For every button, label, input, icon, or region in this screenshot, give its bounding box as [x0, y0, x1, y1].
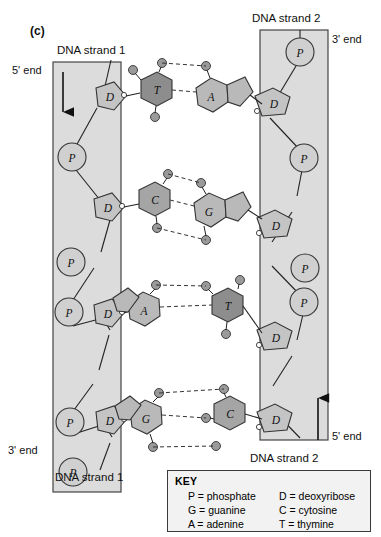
- svg-text:G: G: [142, 413, 151, 425]
- svg-text:P: P: [65, 417, 73, 429]
- hydrogen-bond: [162, 63, 206, 66]
- svg-text:D: D: [103, 202, 113, 214]
- svg-text:P: P: [64, 307, 72, 319]
- hydrogen-bond: [170, 200, 194, 206]
- base-pair-4: G C: [115, 385, 262, 452]
- svg-text:D: D: [271, 220, 281, 232]
- svg-text:D: D: [105, 91, 115, 103]
- atom-node: [222, 330, 231, 339]
- svg-text:D: D: [271, 332, 281, 344]
- strand2-top-label: DNA strand 2: [252, 12, 320, 24]
- svg-text:A: A: [206, 91, 215, 103]
- hydrogen-bond: [153, 446, 216, 447]
- svg-text:G: G: [205, 206, 214, 218]
- key-row: P = phosphate D = deoxyribose: [188, 489, 370, 503]
- three-prime-end-left-label: 3' end: [8, 444, 38, 456]
- five-prime-end-right-label: 5' end: [332, 430, 362, 442]
- dna-diagram-svg: P P P P P D D D: [0, 0, 381, 537]
- svg-text:P: P: [299, 153, 307, 165]
- atom-node: [129, 66, 138, 75]
- svg-text:P: P: [67, 152, 75, 164]
- key-row: A = adenine T = thymine: [188, 517, 370, 531]
- base-pair-3: A T: [113, 276, 262, 339]
- base-G-left: G: [115, 396, 162, 434]
- base-G-right: G: [194, 192, 251, 227]
- svg-text:C: C: [226, 408, 234, 420]
- base-pair-2: C G: [124, 170, 262, 245]
- base-pair-1: T A: [126, 59, 262, 122]
- key-entry-phosphate: P = phosphate: [188, 489, 279, 503]
- dna-structure-figure: P P P P P D D D: [0, 0, 381, 537]
- deoxyribose-node: D: [96, 82, 127, 110]
- three-prime-end-right-label: 3' end: [332, 33, 362, 45]
- key-entry-guanine: G = guanine: [188, 503, 279, 517]
- hydrogen-bond: [159, 389, 224, 393]
- hydrogen-bond: [168, 174, 201, 183]
- base-A-right: A: [196, 77, 253, 112]
- panel-label: (c): [30, 24, 45, 38]
- key-entry-cytosine: C = cytosine: [279, 503, 370, 517]
- hydrogen-bond: [157, 228, 206, 240]
- strand1-bottom-label: DNA strand 1: [55, 471, 123, 483]
- svg-text:D: D: [105, 415, 115, 427]
- strand1-top-label: DNA strand 1: [57, 44, 125, 56]
- svg-text:P: P: [299, 297, 307, 309]
- svg-text:D: D: [271, 414, 281, 426]
- key-row: G = guanine C = cytosine: [188, 503, 370, 517]
- key-entry-thymine: T = thymine: [279, 517, 370, 531]
- hydrogen-bond: [156, 285, 206, 286]
- svg-text:A: A: [139, 305, 148, 317]
- key-entry-adenine: A = adenine: [188, 517, 279, 531]
- atom-node: [151, 113, 160, 122]
- atom-node: [236, 276, 245, 285]
- svg-text:D: D: [269, 98, 279, 110]
- svg-text:P: P: [66, 257, 74, 269]
- hydrogen-bond: [162, 415, 206, 418]
- five-prime-end-left-label: 5' end: [12, 64, 42, 76]
- key-title: KEY: [175, 475, 197, 487]
- svg-text:D: D: [103, 308, 113, 320]
- key-legend-box: KEY P = phosphate D = deoxyribose G = gu…: [167, 470, 371, 532]
- svg-text:P: P: [295, 47, 303, 59]
- base-C-left: C: [139, 182, 170, 216]
- svg-text:C: C: [151, 194, 159, 206]
- hydrogen-bond: [172, 90, 196, 92]
- hydrogen-bond: [160, 305, 212, 307]
- svg-text:P: P: [300, 263, 308, 275]
- key-entries: P = phosphate D = deoxyribose G = guanin…: [188, 489, 370, 531]
- base-C-right: C: [214, 396, 245, 430]
- base-T-right: T: [212, 288, 243, 322]
- base-T-left: T: [141, 72, 172, 106]
- strand2-bottom-label: DNA strand 2: [250, 452, 318, 464]
- key-entry-deoxyribose: D = deoxyribose: [279, 489, 370, 503]
